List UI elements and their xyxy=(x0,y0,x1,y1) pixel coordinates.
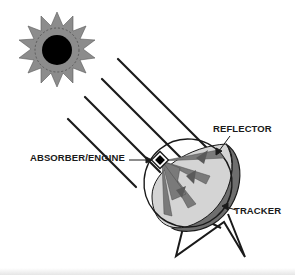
tracker-label: TRACKER xyxy=(234,205,281,216)
reflector-dish xyxy=(126,121,250,245)
absorber-engine-label: ABSORBER/ENGINE xyxy=(30,152,125,163)
reflector-label: REFLECTOR xyxy=(213,123,272,134)
solar-dish-diagram xyxy=(0,0,295,275)
bottom-edge-shadow xyxy=(0,268,295,275)
sun-icon xyxy=(19,12,95,87)
